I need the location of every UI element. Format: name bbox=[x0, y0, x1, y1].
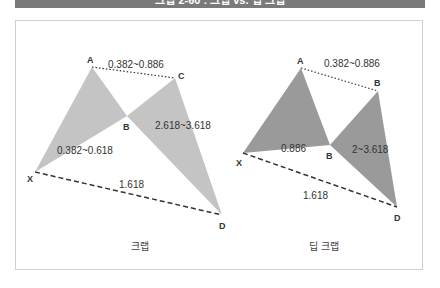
crab-pattern: A B C X D 0.382~0.886 0.382~0.618 2.618~… bbox=[27, 55, 226, 231]
deep-crab-xab-triangle bbox=[243, 68, 330, 153]
deep-crab-point-a: A bbox=[297, 56, 304, 66]
deep-crab-point-d: D bbox=[394, 213, 401, 223]
deep-crab-point-x: X bbox=[236, 158, 242, 168]
crab-point-c: C bbox=[178, 71, 185, 81]
crab-bd-ratio: 2.618~3.618 bbox=[155, 120, 211, 131]
crab-ac-ratio: 0.382~0.886 bbox=[108, 59, 164, 70]
crab-point-d: D bbox=[219, 221, 226, 231]
deep-crab-xb-ratio: 0.886 bbox=[281, 143, 306, 154]
crab-point-a: A bbox=[87, 55, 94, 65]
crab-xd-ratio: 1.618 bbox=[119, 179, 144, 190]
crab-point-b: B bbox=[123, 122, 130, 132]
deep-crab-xd-ratio: 1.618 bbox=[303, 190, 328, 201]
deep-crab-ac-dotted-line bbox=[301, 68, 378, 91]
harmonic-pattern-diagrams: A B C X D 0.382~0.886 0.382~0.618 2.618~… bbox=[0, 0, 440, 288]
crab-point-x: X bbox=[27, 174, 33, 184]
deep-crab-point-b: B bbox=[326, 151, 333, 161]
deep-crab-bd-ratio: 2~3.618 bbox=[352, 144, 389, 155]
crab-xb-ratio: 0.382~0.618 bbox=[57, 145, 113, 156]
crab-bcd-triangle bbox=[127, 78, 222, 215]
deep-crab-ac-ratio: 0.382~0.886 bbox=[324, 58, 380, 69]
deep-crab-point-c: B bbox=[374, 78, 381, 88]
deep-crab-pattern: A B B X D 0.382~0.886 0.886 2~3.618 1.61… bbox=[236, 56, 401, 223]
crab-caption: 크랩 bbox=[100, 238, 180, 253]
crab-xab-triangle bbox=[35, 67, 127, 172]
deep-crab-caption: 딥 크랩 bbox=[284, 238, 364, 253]
